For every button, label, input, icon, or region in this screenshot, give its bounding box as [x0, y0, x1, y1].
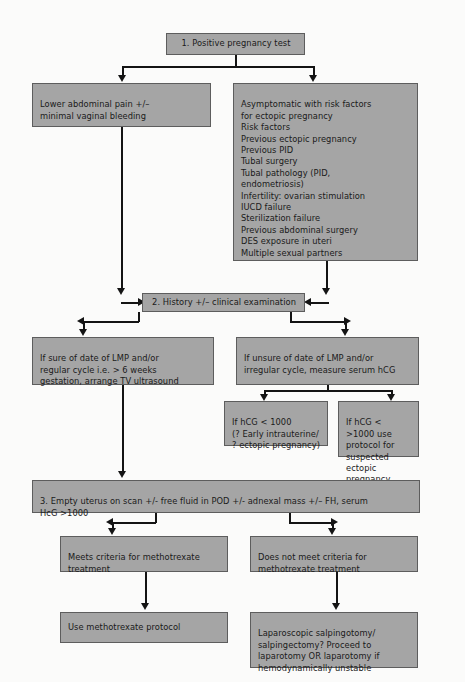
- connector-history-right-bar: [290, 321, 346, 323]
- connector-sure-down: [122, 385, 124, 472]
- arrowhead-to-lower-abdominal-pain: [118, 75, 126, 82]
- node-use-methotrexate-label: Use methotrexate protocol: [68, 622, 221, 633]
- connector-n1-split: [122, 66, 314, 68]
- node-empty-uterus-label: 3. Empty uterus on scan +/- free fluid i…: [40, 496, 368, 517]
- connector-pain-down: [121, 127, 123, 289]
- node-surgical-management-label: Laparoscopic salpingotomy/ salpingectomy…: [258, 628, 380, 672]
- node-sure-of-date-label: If sure of date of LMP and/or regular cy…: [40, 353, 179, 386]
- node-hcg-high-label: If hCG < >1000 use protocol for suspecte…: [346, 417, 395, 484]
- node-lower-abdominal-pain[interactable]: Lower abdominal pain +/– minimal vaginal…: [32, 83, 211, 127]
- connector-notmeets-down: [336, 572, 338, 604]
- connector-riskfactors-down: [326, 261, 328, 289]
- connector-history-left-bar: [83, 321, 139, 323]
- node-meets-criteria[interactable]: Meets criteria for methotrexate treatmen…: [60, 536, 228, 572]
- arrowhead-to-surgical-management: [332, 603, 340, 610]
- arrowhead-riskfactors-into-history: [304, 298, 311, 306]
- node-meets-criteria-label: Meets criteria for methotrexate treatmen…: [68, 552, 200, 573]
- node-unsure-of-date[interactable]: If unsure of date of LMP and/or irregula…: [236, 337, 419, 385]
- node-use-methotrexate[interactable]: Use methotrexate protocol: [60, 612, 228, 643]
- flowchart-canvas: 1. Positive pregnancy test Lower abdomin…: [0, 0, 465, 682]
- arrowhead-to-unsure-of-date: [341, 329, 349, 336]
- node-history-clinical-exam[interactable]: 2. History +/– clinical examination: [142, 293, 305, 312]
- connector-unsure-split: [264, 390, 392, 392]
- arrowhead-to-hcg-high: [387, 394, 395, 401]
- node-sure-of-date[interactable]: If sure of date of LMP and/or regular cy…: [32, 337, 214, 385]
- node-risk-factors[interactable]: Asymptomatic with risk factors for ectop…: [233, 83, 418, 261]
- arrowhead-to-use-methotrexate: [141, 603, 149, 610]
- node-positive-pregnancy-test[interactable]: 1. Positive pregnancy test: [166, 33, 305, 55]
- arrowhead-to-sure-of-date: [79, 329, 87, 336]
- node-history-clinical-exam-label: 2. History +/– clinical examination: [150, 297, 298, 308]
- node-surgical-management[interactable]: Laparoscopic salpingotomy/ salpingectomy…: [250, 612, 418, 668]
- node-hcg-low[interactable]: If hCG < 1000 (? Early intrauterine/ ? e…: [224, 401, 328, 446]
- arrowhead-to-empty-uterus: [118, 471, 126, 478]
- connector-history-right-stem: [290, 312, 292, 322]
- connector-pain-to-history-h: [121, 302, 139, 304]
- connector-meets-down: [145, 572, 147, 604]
- node-does-not-meet-criteria[interactable]: Does not meet criteria for methotrexate …: [250, 536, 418, 572]
- connector-riskfactors-to-history-h: [311, 302, 329, 304]
- arrowhead-pain-to-history: [117, 288, 125, 295]
- node-hcg-low-label: If hCG < 1000 (? Early intrauterine/ ? e…: [232, 417, 320, 450]
- connector-n3-right-bar: [289, 522, 333, 524]
- arrowhead-riskfactors-down: [322, 288, 330, 295]
- arrowhead-to-hcg-low: [260, 394, 268, 401]
- node-lower-abdominal-pain-label: Lower abdominal pain +/– minimal vaginal…: [40, 99, 150, 120]
- arrowhead-to-does-not-meet-criteria: [328, 528, 336, 535]
- arrowhead-to-meets-criteria: [108, 528, 116, 535]
- node-positive-pregnancy-test-label: 1. Positive pregnancy test: [174, 38, 298, 49]
- node-risk-factors-label: Asymptomatic with risk factors for ectop…: [241, 99, 371, 257]
- node-unsure-of-date-label: If unsure of date of LMP and/or irregula…: [244, 353, 395, 374]
- node-empty-uterus[interactable]: 3. Empty uterus on scan +/- free fluid i…: [32, 480, 420, 513]
- node-does-not-meet-criteria-label: Does not meet criteria for methotrexate …: [258, 552, 367, 573]
- arrowhead-to-risk-factors: [309, 75, 317, 82]
- connector-history-left-stem: [138, 312, 140, 322]
- connector-n3-left-bar: [112, 522, 156, 524]
- node-hcg-high[interactable]: If hCG < >1000 use protocol for suspecte…: [338, 401, 419, 457]
